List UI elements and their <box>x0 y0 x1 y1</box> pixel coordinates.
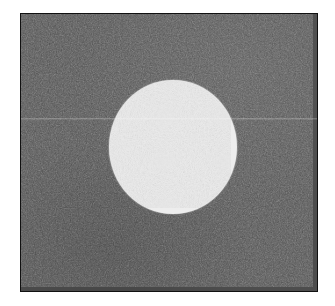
disk-region <box>109 80 237 214</box>
image-frame <box>20 13 318 292</box>
figure-root <box>0 0 335 306</box>
disk-noise-texture <box>109 80 231 208</box>
